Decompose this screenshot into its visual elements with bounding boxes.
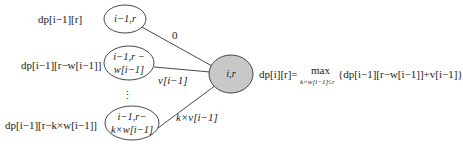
node-target-label: i,r: [209, 68, 253, 80]
edge-n2: [154, 67, 210, 72]
edge-label-n2: v[i−1]: [158, 74, 187, 86]
dp-label-n2: dp[i−1][r−w[i−1]]: [21, 59, 101, 71]
formula-lhs: dp[i][r]=: [259, 68, 298, 80]
dp-label-n1: dp[i−1][r]: [38, 13, 82, 25]
edge-label-n1: 0: [172, 29, 178, 41]
node-n3-label-line2: k×w[i−1]: [105, 124, 159, 136]
formula-subscript: k×w[i−1]≤r: [300, 76, 335, 88]
formula-max: max: [311, 64, 330, 76]
edge-label-n3: k×v[i−1]: [176, 111, 218, 123]
node-n3-label-line1: i−1,r−: [105, 111, 159, 123]
dp-label-n3: dp[i−1][r−k×w[i−1]]: [5, 119, 97, 131]
formula-rhs: {dp[i−1][r−w[i−1]]+v[i−1]}: [338, 68, 463, 80]
ellipsis-dots: ⋮: [122, 90, 132, 102]
node-n1-label: i−1,r: [104, 13, 146, 25]
node-n2-label-line1: i−1,r −: [104, 51, 154, 63]
node-n2-label-line2: w[i−1]: [104, 64, 154, 76]
